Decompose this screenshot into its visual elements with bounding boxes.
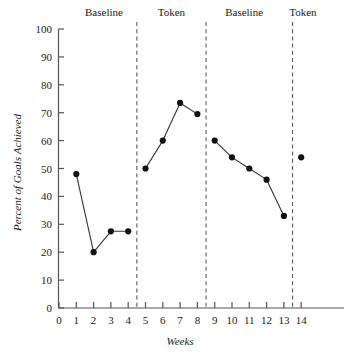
data-point (212, 138, 218, 144)
data-point (73, 171, 79, 177)
data-line-series (76, 103, 284, 252)
data-point (160, 138, 166, 144)
data-point (281, 213, 287, 219)
data-point (194, 111, 200, 117)
data-point (177, 100, 183, 106)
data-point (264, 177, 270, 183)
phase-divider-lines (137, 22, 293, 308)
data-point (298, 154, 304, 160)
x-axis-ticks (59, 302, 301, 308)
data-point (91, 249, 97, 255)
data-point-markers (73, 100, 304, 255)
data-point (229, 154, 235, 160)
data-point (142, 165, 148, 171)
data-point (246, 165, 252, 171)
plot-area (0, 0, 351, 358)
data-point (108, 228, 114, 234)
single-case-design-chart: BaselineTokenBaselineToken 0102030405060… (0, 0, 351, 358)
data-point (125, 228, 131, 234)
y-axis-ticks (59, 29, 65, 308)
